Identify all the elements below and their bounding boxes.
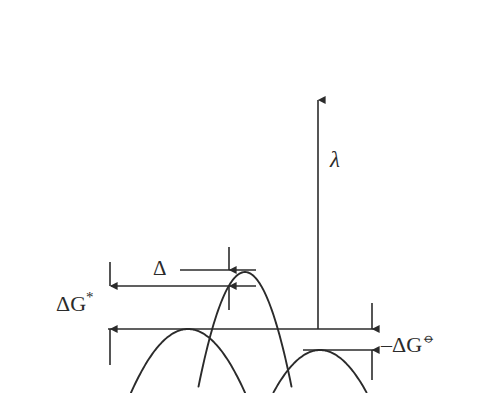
reaction-free-energy-label-text: –ΔG	[381, 332, 422, 357]
activation-energy-label-text: ΔG	[56, 291, 86, 316]
reactant-parabola-path	[131, 329, 245, 393]
delta-label: Δ	[153, 258, 167, 279]
marcus-free-energy-diagram: ΔG* Δ λ –ΔG⦵	[0, 0, 496, 393]
activation-energy-label: ΔG*	[56, 291, 94, 315]
reactant-parabola	[131, 329, 245, 393]
activation-energy-label-superscript: *	[86, 289, 94, 305]
reaction-free-energy-label: –ΔG⦵	[381, 331, 435, 356]
standard-state-symbol: ⦵	[422, 328, 435, 345]
reorganization-energy-label: λ	[330, 148, 340, 171]
